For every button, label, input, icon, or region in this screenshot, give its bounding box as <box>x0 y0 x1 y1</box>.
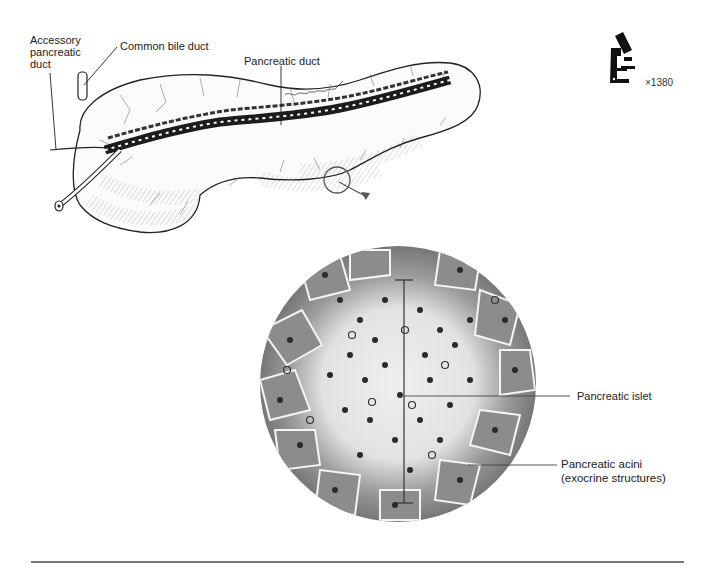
pancreas-illustration <box>0 0 714 581</box>
microscope-icon <box>610 32 635 83</box>
label-accessory-pancreatic-duct: Accessory pancreatic duct <box>30 34 81 70</box>
leader-accessory-duct <box>50 73 56 150</box>
magnification-value: ×1380 <box>645 77 673 88</box>
label-pancreatic-acini: Pancreatic acini (exocrine structures) <box>561 457 666 485</box>
leader-common-bile-duct <box>84 47 117 85</box>
label-common-bile-duct: Common bile duct <box>120 40 209 52</box>
islet-micrograph <box>260 246 536 522</box>
bottom-rule <box>31 561 684 563</box>
label-pancreatic-duct: Pancreatic duct <box>244 55 320 67</box>
label-pancreatic-islet: Pancreatic islet <box>577 390 652 402</box>
pancreas-body <box>50 62 480 232</box>
